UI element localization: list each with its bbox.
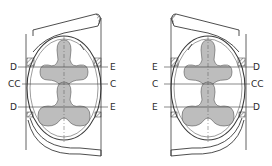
left-pump-diagram: D CC D E C E (0, 0, 136, 166)
label-e-bottom-right: E (110, 102, 116, 112)
label-d-top-left: D (10, 62, 17, 72)
label-cc-left: CC (8, 79, 21, 89)
label-d-bottom-left: D (10, 102, 17, 112)
label-e-top-right: E (110, 62, 116, 72)
right-pump-diagram: E C E D CC D (136, 0, 272, 166)
label-cc-right: CC (251, 79, 264, 89)
label-c-right: C (110, 79, 116, 89)
label-d-top-right: D (253, 62, 260, 72)
label-d-bottom-right: D (253, 102, 260, 112)
label-c-left: C (152, 79, 158, 89)
label-e-bottom-left: E (152, 102, 158, 112)
label-e-top-left: E (152, 62, 158, 72)
